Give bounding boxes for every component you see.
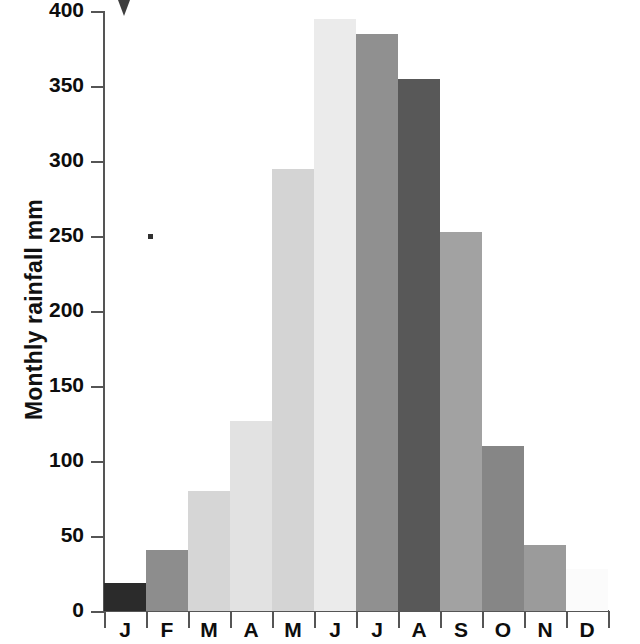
y-tick-label: 250 [0,223,84,247]
y-tick-mark [91,311,104,313]
scan-artifact-dot-icon [148,234,153,239]
bar-a-7[interactable] [398,79,440,612]
y-tick-label: 150 [0,373,84,397]
x-tick-label-december: D [566,618,608,642]
bar-j-5[interactable] [314,19,356,612]
x-tick-mark [608,611,610,628]
y-tick-label: 100 [0,448,84,472]
y-tick-label: 300 [0,148,84,172]
bar-d-11[interactable] [566,569,608,611]
x-tick-label-july: J [356,618,398,642]
bar-n-10[interactable] [524,545,566,611]
scan-artifact-arrow-icon [118,0,130,16]
x-tick-label-october: O [482,618,524,642]
bar-s-8[interactable] [440,232,482,612]
bar-a-3[interactable] [230,421,272,612]
x-tick-label-may: M [272,618,314,642]
bar-j-6[interactable] [356,34,398,612]
x-tick-label-january: J [104,618,146,642]
y-tick-label: 0 [0,598,84,622]
x-tick-label-june: J [314,618,356,642]
bar-o-9[interactable] [482,446,524,611]
bar-f-1[interactable] [146,550,188,612]
y-tick-label: 400 [0,0,84,22]
rainfall-bar-chart: Monthly rainfall mm 05010015020025030035… [0,0,640,644]
x-tick-label-september: S [440,618,482,642]
y-tick-mark [91,611,104,613]
y-tick-mark [91,236,104,238]
x-tick-label-february: F [146,618,188,642]
bar-j-0[interactable] [104,583,146,612]
x-tick-label-november: N [524,618,566,642]
y-tick-mark [91,536,104,538]
bar-m-2[interactable] [188,491,230,611]
y-tick-label: 50 [0,523,84,547]
x-tick-label-august: A [398,618,440,642]
y-tick-mark [91,386,104,388]
y-tick-mark [91,461,104,463]
bar-m-4[interactable] [272,169,314,612]
y-tick-mark [91,86,104,88]
x-tick-label-march: M [188,618,230,642]
plot-area [104,11,608,611]
y-tick-label: 350 [0,73,84,97]
y-tick-label: 200 [0,298,84,322]
y-tick-mark [91,161,104,163]
x-tick-label-april: A [230,618,272,642]
y-tick-mark [91,11,104,13]
